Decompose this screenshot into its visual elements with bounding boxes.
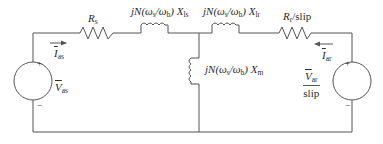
voltage-source-stator bbox=[14, 62, 52, 100]
label-current-rotor: Iar bbox=[322, 50, 332, 63]
label-xlr: jN(ωs/ωb) Xlr bbox=[203, 6, 260, 19]
arrow-left-icon bbox=[314, 42, 320, 47]
minus-rotor: − bbox=[345, 101, 350, 110]
label-current-stator: Ias bbox=[54, 48, 64, 61]
resistor-rr bbox=[279, 27, 311, 39]
voltage-source-rotor bbox=[333, 62, 371, 100]
label-voltage-rotor: Var slip bbox=[303, 70, 320, 99]
circuit-wires bbox=[0, 0, 383, 144]
arrow-right-icon bbox=[61, 41, 67, 46]
inductor-xlr bbox=[212, 23, 239, 33]
label-rs: Rs bbox=[88, 13, 98, 26]
plus-stator: + bbox=[37, 59, 42, 68]
label-xm: jN(ωs/ωb) Xm bbox=[205, 64, 263, 77]
label-xls: jN(ωs/ωb) Xls bbox=[131, 6, 188, 19]
label-rr-slip: Rr/slip bbox=[283, 11, 311, 24]
circuit-diagram: Rs jN(ωs/ωb) Xls jN(ωs/ωb) Xlr Rr/slip j… bbox=[0, 0, 383, 144]
resistor-rs bbox=[80, 27, 113, 39]
label-voltage-stator: Vas bbox=[55, 82, 68, 95]
inductor-xls bbox=[141, 23, 168, 33]
minus-stator: − bbox=[37, 101, 42, 110]
plus-rotor: + bbox=[345, 59, 350, 68]
inductor-xm bbox=[189, 33, 199, 132]
